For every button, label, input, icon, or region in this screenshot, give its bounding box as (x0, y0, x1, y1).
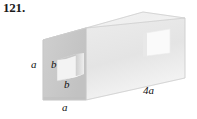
figure-container: 121. (0, 0, 197, 119)
dimension-label-hole-width: b (64, 79, 70, 90)
dimension-label-hole-height: b (51, 59, 57, 70)
far-end-hole (143, 29, 170, 57)
dimension-label-length: 4a (143, 85, 154, 96)
dimension-label-front-width: a (62, 102, 68, 113)
prism-with-hole-illustration (0, 0, 197, 119)
prism-bottom-edge-shade (43, 97, 86, 100)
dimension-label-left-height: a (31, 59, 37, 70)
